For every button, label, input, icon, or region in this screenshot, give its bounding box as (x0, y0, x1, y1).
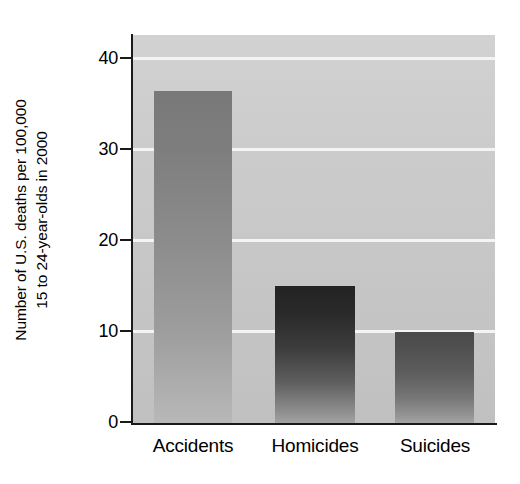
y-axis-tick-label: 20 (62, 231, 118, 249)
bar-chart-figure: Number of U.S. deaths per 100,000 15 to … (0, 0, 520, 484)
y-axis-title: Number of U.S. deaths per 100,000 15 to … (0, 0, 62, 440)
y-axis-tick-label: 30 (62, 140, 118, 158)
y-axis-tick-label: 10 (62, 322, 118, 340)
x-axis-category-labels: AccidentsHomicidesSuicides (133, 433, 495, 467)
bar-suicides (395, 332, 474, 423)
y-axis-title-line-1: Number of U.S. deaths per 100,000 (10, 99, 31, 340)
y-axis-tick-labels: 010203040 (62, 0, 118, 484)
gridline (133, 57, 495, 60)
y-axis-tick-label: 40 (62, 49, 118, 67)
plot-area (133, 35, 495, 423)
y-axis-tick-label: 0 (62, 413, 118, 431)
y-axis-title-line-2: 15 to 24-year-olds in 2000 (31, 99, 52, 340)
bar-homicides (275, 286, 355, 423)
x-axis-category-label: Suicides (355, 433, 515, 459)
bar-accidents (154, 91, 232, 423)
x-axis-line (131, 423, 497, 425)
